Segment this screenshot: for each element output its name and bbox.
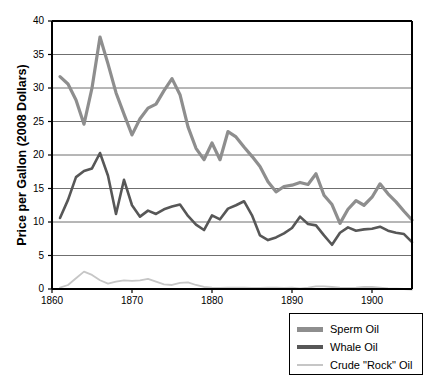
y-axis-tick-label: 20 bbox=[22, 150, 44, 160]
legend-item: Whale Oil bbox=[297, 338, 378, 356]
y-axis-tick-label: 35 bbox=[22, 50, 44, 60]
legend-item: Crude "Rock" Oil bbox=[297, 356, 412, 374]
y-axis-tick-label: 5 bbox=[22, 251, 44, 261]
y-axis-tick-label: 30 bbox=[22, 83, 44, 93]
legend-item: Sperm Oil bbox=[297, 320, 379, 338]
x-axis-tick-label: 1890 bbox=[272, 296, 312, 306]
legend-item-label: Whale Oil bbox=[330, 341, 378, 353]
series-line-whale-oil bbox=[60, 153, 412, 245]
legend-color-swatch bbox=[297, 345, 323, 349]
y-axis-tick-label: 25 bbox=[22, 117, 44, 127]
chart-figure: Price per Gallon (2008 Dollars) 40353025… bbox=[0, 0, 428, 382]
x-axis-tick-label: 1900 bbox=[352, 296, 392, 306]
legend-color-swatch bbox=[297, 364, 323, 366]
legend-color-swatch bbox=[297, 327, 323, 332]
x-axis-tick-label: 1880 bbox=[192, 296, 232, 306]
legend-item-label: Sperm Oil bbox=[330, 323, 379, 335]
y-axis-tick-label: 10 bbox=[22, 217, 44, 227]
y-axis-tick-label: 15 bbox=[22, 184, 44, 194]
legend-item-label: Crude "Rock" Oil bbox=[330, 359, 412, 371]
x-axis-tick-label: 1860 bbox=[32, 296, 72, 306]
x-axis-tick-label: 1870 bbox=[112, 296, 152, 306]
chart-legend: Sperm OilWhale OilCrude "Rock" Oil bbox=[289, 313, 423, 375]
y-axis-tick-label: 0 bbox=[22, 284, 44, 294]
y-axis-tick-label: 40 bbox=[22, 16, 44, 26]
series-line-crude-rock-oil bbox=[60, 272, 412, 290]
